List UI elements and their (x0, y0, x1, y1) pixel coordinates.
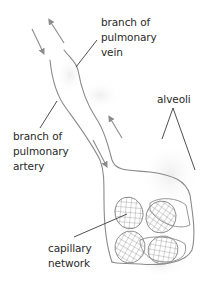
artery-leader (40, 101, 57, 128)
label-pulmonary-vein: branch of pulmonary vein (101, 15, 157, 60)
alveoli-cluster (111, 194, 190, 266)
diagram-canvas: branch of pulmonary vein alveoli branch … (0, 0, 209, 289)
vein-leader (76, 40, 97, 67)
label-capillary-network: capillary network (48, 241, 92, 271)
label-pulmonary-artery: branch of pulmonary artery (13, 129, 69, 174)
arrow-vein-up (110, 118, 122, 138)
label-alveoli: alveoli (157, 92, 191, 107)
arrow-out-top (50, 21, 64, 43)
arrow-artery-down (93, 140, 106, 165)
alveoli-leader-left (162, 108, 173, 139)
arrow-in-top (32, 29, 43, 52)
capillary-leader (74, 214, 127, 237)
